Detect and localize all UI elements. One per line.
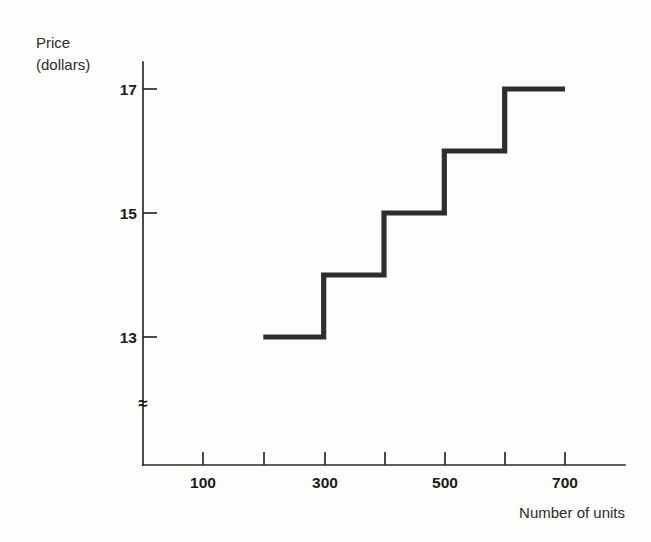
step-function-series [263,89,565,337]
x-tick-label-700: 700 [552,474,578,491]
x-axis-title: Number of units [519,504,625,521]
step-chart-figure: 17 15 13 100 300 500 700 ≈ Price (dollar… [0,0,651,542]
y-tick-label-17: 17 [120,81,137,98]
x-tick-label-100: 100 [190,474,216,491]
y-axis-break-icon: ≈ [138,394,147,413]
x-tick-label-300: 300 [312,474,338,491]
y-tick-label-15: 15 [120,205,138,222]
scan-bleedthrough-artifact [120,2,124,18]
y-axis-title-line1: Price [36,34,70,51]
y-tick-label-13: 13 [120,329,138,346]
chart-canvas: 17 15 13 100 300 500 700 ≈ Price (dollar… [0,0,651,542]
y-axis-title-line2: (dollars) [36,56,90,73]
x-tick-label-500: 500 [432,474,458,491]
